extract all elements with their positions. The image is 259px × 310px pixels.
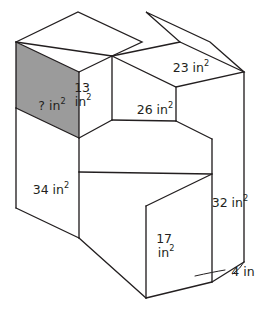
isometric-solid-diagram: ? in2 13 in2 23 in2 26 in2 34 in2 32 in2…	[0, 0, 259, 310]
label-depth-4in: 4 in	[203, 264, 259, 279]
face-top-left-block	[16, 12, 142, 56]
face-right-32	[212, 72, 244, 282]
label-face-23: 23 in2	[145, 58, 229, 75]
isometric-figure-container: ? in2 13 in2 23 in2 26 in2 34 in2 32 in2…	[0, 0, 259, 310]
label-face-34: 34 in2	[5, 180, 89, 197]
label-face-26: 26 in2	[109, 100, 193, 117]
label-face-17: 17 in2	[156, 231, 200, 260]
label-face-32: 32 in2	[184, 193, 259, 210]
